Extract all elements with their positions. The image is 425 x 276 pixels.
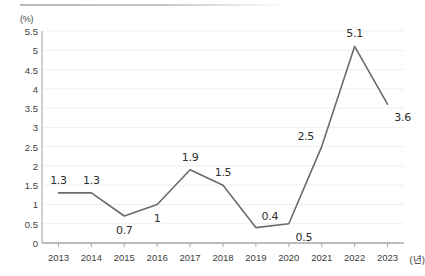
- x-axis-category-label: 2019: [245, 252, 266, 263]
- x-axis-category-label: 2014: [81, 252, 102, 263]
- x-axis-category-label: 2013: [48, 252, 69, 263]
- data-point-value-label: 3.6: [394, 111, 411, 124]
- y-axis-tick-labels: 00.511.522.533.544.555.5: [8, 0, 38, 276]
- x-axis-tick-marks: [58, 243, 387, 247]
- y-axis-tick-label: 3: [12, 122, 38, 133]
- data-point-value-label: 1.9: [182, 150, 199, 163]
- data-point-value-label: 2.5: [297, 129, 314, 142]
- x-axis-category-label: 2018: [212, 252, 233, 263]
- x-axis-category-label: 2020: [278, 252, 299, 263]
- y-axis-tick-label: 0: [12, 238, 38, 249]
- x-axis-category-label: 2017: [180, 252, 201, 263]
- data-point-value-label: 0.7: [116, 224, 133, 237]
- x-axis-category-label: 2015: [114, 252, 135, 263]
- data-point-value-label: 1: [154, 212, 161, 225]
- y-axis-tick-label: 3.5: [12, 103, 38, 114]
- y-axis-tick-label: 0.5: [12, 218, 38, 229]
- x-axis-category-label: 2022: [344, 252, 365, 263]
- x-axis-category-label: 2023: [377, 252, 398, 263]
- data-point-value-label: 0.5: [296, 230, 313, 243]
- y-axis-tick-label: 4.5: [12, 64, 38, 75]
- y-axis-tick-label: 5.5: [12, 26, 38, 37]
- x-axis-category-label: 2016: [147, 252, 168, 263]
- data-point-value-label: 1.3: [50, 173, 67, 186]
- x-axis-category-label: 2021: [311, 252, 332, 263]
- data-point-value-label: 1.3: [83, 173, 100, 186]
- y-axis-tick-label: 4: [12, 83, 38, 94]
- y-axis-tick-label: 1: [12, 199, 38, 210]
- data-series-line: [59, 46, 388, 227]
- y-axis-tick-label: 5: [12, 45, 38, 56]
- data-point-value-label: 5.1: [346, 27, 363, 40]
- data-point-value-label: 0.4: [262, 209, 279, 222]
- data-point-value-label: 1.5: [215, 166, 232, 179]
- y-axis-tick-label: 1.5: [12, 180, 38, 191]
- y-axis-tick-label: 2: [12, 160, 38, 171]
- y-axis-tick-label: 2.5: [12, 141, 38, 152]
- x-axis-unit-label: (년): [410, 252, 425, 266]
